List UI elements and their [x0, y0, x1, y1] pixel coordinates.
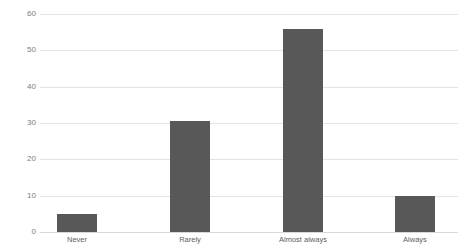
- x-axis-tick-labels: Never Rarely Almost always Always: [40, 234, 458, 247]
- bar-rarely[interactable]: [170, 121, 210, 232]
- bar-slot-always: [395, 14, 435, 232]
- bars-layer: [40, 14, 458, 232]
- x-axis-tick-rarely: Rarely: [179, 234, 201, 246]
- bar-slot-rarely: [170, 14, 210, 232]
- y-axis-tick-labels: 60 50 40 30 20 10 0: [0, 14, 36, 232]
- bar-chart: 60 50 40 30 20 10 0 Never Rarely Almost …: [0, 0, 474, 247]
- bar-slot-almost-always: [283, 14, 323, 232]
- y-axis-tick-50: 50: [6, 46, 36, 54]
- bar-slot-never: [57, 14, 97, 232]
- bar-never[interactable]: [57, 214, 97, 232]
- y-axis-tick-0: 0: [6, 228, 36, 236]
- bar-almost-always[interactable]: [283, 29, 323, 232]
- x-axis-tick-never: Never: [67, 234, 87, 246]
- y-axis-tick-40: 40: [6, 83, 36, 91]
- y-axis-tick-60: 60: [6, 10, 36, 18]
- y-axis-tick-10: 10: [6, 192, 36, 200]
- y-axis-tick-30: 30: [6, 119, 36, 127]
- x-axis-tick-almost-always: Almost always: [279, 234, 327, 246]
- gridline-baseline-0: [40, 232, 458, 233]
- bar-always[interactable]: [395, 196, 435, 232]
- x-axis-tick-always: Always: [403, 234, 427, 246]
- y-axis-tick-20: 20: [6, 155, 36, 163]
